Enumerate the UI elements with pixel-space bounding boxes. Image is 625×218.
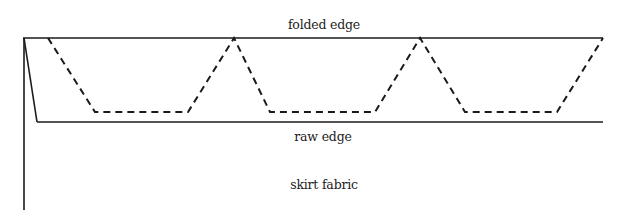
folded-edge-label: folded edge: [288, 17, 360, 32]
stitch-path-dashed: [48, 38, 603, 112]
raw-edge-label: raw edge: [294, 129, 351, 144]
skirt-fabric-label: skirt fabric: [290, 177, 358, 192]
hem-fold-slant: [24, 38, 37, 122]
hem-diagram: folded edge raw edge skirt fabric: [0, 0, 625, 218]
